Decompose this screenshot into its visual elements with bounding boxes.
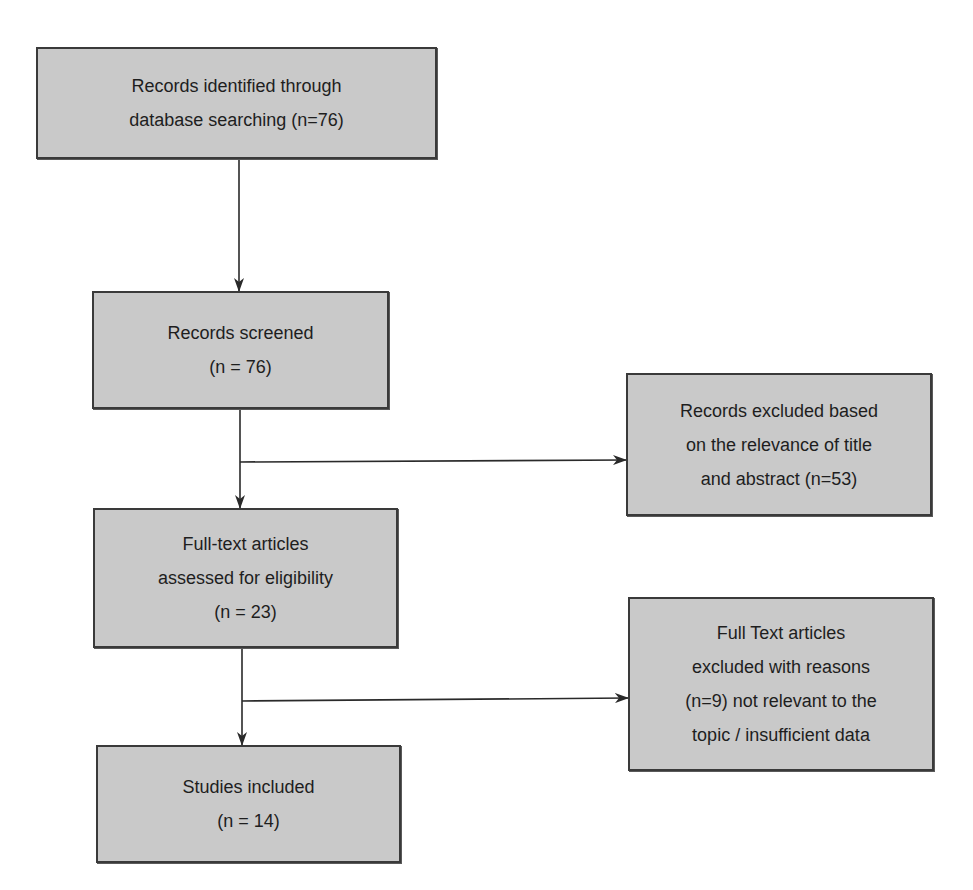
node-text-line: (n = 23) [214, 595, 277, 629]
prisma-flow-diagram: Records identified through database sear… [0, 0, 973, 890]
node-text-line: (n=9) not relevant to the [685, 684, 877, 718]
node-fulltext-excluded: Full Text articles excluded with reasons… [628, 597, 934, 771]
node-text-line: excluded with reasons [692, 650, 870, 684]
node-text-line: assessed for eligibility [158, 561, 333, 595]
node-text-line: Records screened [167, 316, 313, 350]
node-text-line: Records identified through [131, 69, 341, 103]
node-text-line: Full Text articles [717, 616, 846, 650]
node-records-excluded: Records excluded based on the relevance … [626, 373, 932, 516]
node-text-line: on the relevance of title [686, 428, 872, 462]
node-text-line: topic / insufficient data [692, 718, 870, 752]
node-text-line: Studies included [182, 770, 314, 804]
node-records-screened: Records screened (n = 76) [92, 291, 389, 409]
node-text-line: Records excluded based [680, 394, 878, 428]
node-text-line: (n = 14) [217, 804, 280, 838]
node-text-line: and abstract (n=53) [701, 462, 858, 496]
node-fulltext-assessed: Full-text articles assessed for eligibil… [93, 508, 398, 648]
node-studies-included: Studies included (n = 14) [96, 745, 401, 863]
node-records-identified: Records identified through database sear… [36, 47, 437, 159]
arrow-screened-to-excluded [240, 460, 626, 462]
node-text-line: (n = 76) [209, 350, 272, 384]
node-text-line: database searching (n=76) [129, 103, 344, 137]
arrow-fulltext-to-excluded [242, 698, 628, 701]
node-text-line: Full-text articles [182, 527, 308, 561]
